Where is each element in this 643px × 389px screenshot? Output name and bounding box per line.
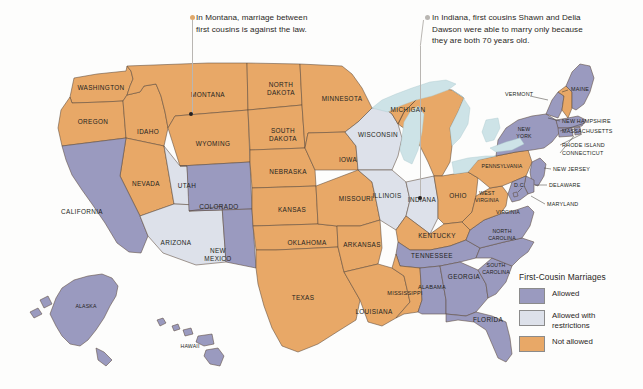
label-delaware: DELAWARE [549, 182, 581, 188]
state-VT[interactable] [546, 92, 564, 118]
state-CO[interactable] [180, 162, 252, 211]
montana-annotation: In Montana, marriage between first cousi… [196, 12, 346, 35]
state-OK[interactable] [253, 224, 338, 250]
montana-leader-line [192, 20, 193, 115]
state-KS[interactable] [252, 186, 318, 226]
legend-title: First-Cousin Marriages [519, 272, 639, 282]
state-WY[interactable] [168, 110, 250, 166]
indiana-leader-line-lower [420, 46, 421, 198]
map-legend: First-Cousin Marriages Allowed Allowed w… [519, 272, 639, 358]
state-WA[interactable] [70, 66, 133, 103]
legend-swatch-allowed [519, 288, 545, 304]
indiana-leader-dot [425, 15, 430, 20]
state-ND[interactable] [247, 63, 302, 110]
state-AK[interactable] [30, 274, 118, 366]
label-vermont: VERMONT [505, 91, 534, 97]
state-FL[interactable] [446, 312, 512, 362]
label-massachusetts: MASSACHUSETTS [562, 128, 613, 134]
label-maryland: MARYLAND [547, 201, 578, 207]
indiana-point-dot [418, 196, 422, 200]
montana-point-dot [189, 112, 193, 116]
state-HI[interactable] [157, 318, 166, 326]
label-hawaii: HAWAII [181, 343, 200, 349]
coastal-water-ne [482, 118, 500, 142]
state-AR[interactable] [337, 220, 382, 272]
state-HI-2[interactable] [172, 324, 180, 331]
legend-item-allowed-with-restrictions[interactable]: Allowed with restrictions [519, 310, 639, 330]
state-HI-4[interactable] [196, 334, 214, 346]
state-DC[interactable] [513, 192, 518, 197]
label-new-jersey: NEW JERSEY [553, 166, 590, 172]
state-HI-3[interactable] [183, 328, 193, 336]
legend-item-not-allowed[interactable]: Not allowed [519, 336, 639, 352]
label-rhode-island: RHODE ISLAND [562, 142, 605, 148]
indiana-annotation: In Indiana, first cousins Shawn and Deli… [432, 12, 628, 47]
legend-label-allowed-with-restrictions: Allowed with restrictions [552, 310, 595, 330]
label-dc: D.C. [514, 182, 526, 188]
legend-label-not-allowed: Not allowed [552, 336, 593, 347]
state-OR[interactable] [58, 97, 126, 146]
state-SD[interactable] [248, 105, 305, 150]
legend-label-allowed: Allowed [552, 288, 579, 299]
map-figure: WASHINGTON OREGON IDAHO MONTANA WYOMING … [0, 0, 643, 389]
state-NE[interactable] [250, 148, 316, 188]
legend-swatch-not-allowed [519, 336, 545, 352]
legend-swatch-allowed-with-restrictions [519, 310, 545, 326]
legend-item-allowed[interactable]: Allowed [519, 288, 639, 304]
label-maine: MAINE [571, 86, 589, 92]
label-connecticut: CONNECTICUT [562, 150, 604, 156]
state-HI-5[interactable] [204, 348, 224, 366]
state-AZ[interactable] [140, 204, 226, 265]
label-new-hampshire: NEW HAMPSHIRE [562, 118, 611, 124]
